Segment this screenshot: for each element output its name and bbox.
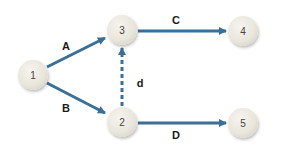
edge-label-a: A <box>62 40 70 52</box>
node-2: 2 <box>107 107 137 137</box>
edge-a <box>47 38 105 67</box>
edge-label-c: C <box>172 14 180 26</box>
edge-label-d: D <box>172 129 180 141</box>
node-3: 3 <box>107 15 137 45</box>
node-1: 1 <box>18 60 48 90</box>
node-4: 4 <box>228 16 258 46</box>
node-5: 5 <box>228 108 258 138</box>
edge-label-dummy: d <box>137 77 144 89</box>
edge-b <box>47 83 105 113</box>
edge-label-b: B <box>62 102 70 114</box>
